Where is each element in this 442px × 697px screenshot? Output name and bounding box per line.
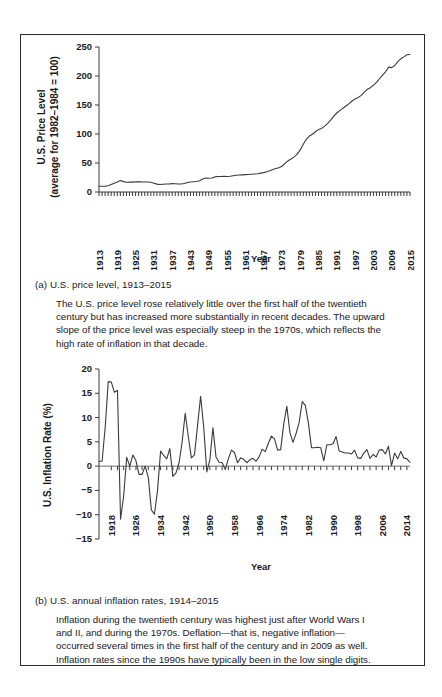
panel-b-caption-title: (b) U.S. annual inflation rates, 1914–20…	[35, 595, 218, 606]
data-series-line	[99, 55, 410, 187]
panel-a-caption-title: (a) U.S. price level, 1913–2015	[35, 279, 172, 290]
panel-a-caption-line: high rate of inflation in that decade.	[56, 337, 385, 350]
x-tick-label: 1974	[278, 514, 289, 536]
panel-b-caption-line: and II, and during the 1970s. Deflation—…	[56, 626, 371, 639]
x-tick-label: 1919	[112, 250, 123, 270]
x-tick-label: 1925	[130, 249, 141, 270]
y-tick-label: 200	[76, 70, 92, 81]
y-tick-label: 20	[81, 363, 92, 374]
x-tick-label: 1913	[94, 250, 105, 270]
figure-frame: 0501001502002501913191919251931193719431…	[20, 34, 425, 666]
x-tick-label: 1979	[295, 250, 306, 270]
y-tick-label: 5	[87, 436, 93, 447]
x-tick-label: 2003	[368, 250, 379, 270]
x-tick-label: 1943	[185, 250, 196, 270]
panel-b-caption-line: Inflation during the twentieth century w…	[56, 613, 371, 626]
panel-b-caption-line: Inflation rates since the 1990s have typ…	[56, 653, 371, 666]
panel-a-caption-line: The U.S. price level rose relatively lit…	[56, 297, 385, 310]
x-tick-label: 1991	[331, 249, 342, 270]
panel-a-caption-line: slope of the price level was especially …	[56, 323, 385, 336]
price-level-plot: 0501001502002501913191919251931193719431…	[21, 35, 424, 270]
x-tick-label: 2015	[405, 249, 416, 270]
x-tick-label: 1998	[352, 515, 363, 536]
x-tick-label: 1985	[313, 249, 324, 270]
inflation-rate-svg: −15−10−505101520191819261934194219501958…	[21, 355, 424, 587]
x-tick-label: 1982	[303, 515, 314, 536]
x-tick-label: 1918	[106, 515, 117, 536]
x-axis-title: Year	[251, 561, 271, 572]
y-tick-label: 10	[81, 412, 92, 423]
panel-a-caption-body: The U.S. price level rose relatively lit…	[56, 297, 385, 350]
panel-inflation-rate: −15−10−505101520191819261934194219501958…	[21, 355, 424, 587]
y-tick-label: 100	[76, 128, 92, 139]
x-tick-label: 2014	[401, 514, 412, 536]
x-tick-label: 1934	[155, 514, 166, 536]
y-tick-label: −5	[81, 484, 93, 495]
y-tick-label: 0	[87, 186, 92, 197]
data-series-line	[99, 382, 410, 519]
x-tick-label: 1950	[204, 515, 215, 536]
x-tick-label: 1931	[148, 249, 159, 270]
panel-a-caption-line: century but has increased more substanti…	[56, 310, 385, 323]
inflation-rate-plot: −15−10−505101520191819261934194219501958…	[21, 355, 424, 587]
panel-price-level: 0501001502002501913191919251931193719431…	[21, 35, 424, 270]
x-tick-label: 1937	[167, 250, 178, 270]
x-tick-label: 1990	[328, 515, 339, 536]
x-tick-label: 2009	[386, 250, 397, 270]
x-tick-label: 1961	[240, 249, 251, 270]
panel-b-caption-line: occurred several times in the first half…	[56, 639, 371, 652]
price-level-svg: 0501001502002501913191919251931193719431…	[21, 35, 424, 270]
y-axis-title: U.S. Inflation Rate (%)	[42, 403, 53, 507]
x-tick-label: 1942	[180, 515, 191, 536]
y-tick-label: −10	[76, 509, 92, 520]
y-tick-label: 250	[76, 41, 92, 52]
y-tick-label: 0	[87, 460, 92, 471]
x-tick-label: 1973	[276, 250, 287, 270]
y-tick-label: 15	[81, 387, 92, 398]
x-tick-label: 1926	[130, 515, 141, 536]
y-axis-title: U.S. Price Level	[36, 89, 47, 164]
panel-b-caption-body: Inflation during the twentieth century w…	[56, 613, 371, 666]
x-tick-label: 2006	[377, 515, 388, 536]
x-tick-label: 1966	[254, 515, 265, 536]
y-tick-label: 150	[76, 99, 92, 110]
y-tick-label: 50	[81, 157, 92, 168]
y-axis-title: (average for 1982–1984 = 100)	[49, 56, 60, 198]
x-axis-title: Year	[251, 253, 271, 264]
y-tick-label: −15	[76, 533, 93, 544]
x-tick-label: 1949	[203, 250, 214, 270]
x-tick-label: 1997	[350, 250, 361, 270]
x-tick-label: 1955	[222, 249, 233, 270]
x-tick-label: 1958	[229, 515, 240, 536]
